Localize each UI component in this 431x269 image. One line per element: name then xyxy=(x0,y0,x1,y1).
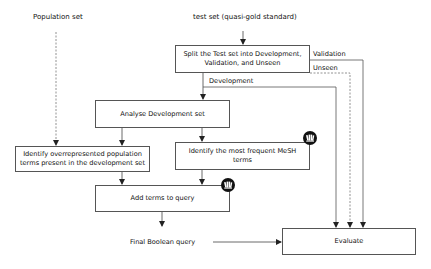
identify-population-terms-box: Identify overrepresented population term… xyxy=(15,146,150,172)
analyse-development-box: Analyse Development set xyxy=(95,100,230,128)
development-edge-label: Development xyxy=(209,77,253,85)
evaluate-box: Evaluate xyxy=(282,228,416,255)
split-test-set-text: Split the Test set into Development, Val… xyxy=(179,50,306,67)
identify-mesh-terms-text: Identify the most frequent MeSH terms xyxy=(179,147,306,164)
final-boolean-query-label: Final Boolean query xyxy=(130,238,195,246)
split-test-set-box: Split the Test set into Development, Val… xyxy=(175,45,310,73)
unseen-edge-label: Unseen xyxy=(313,64,338,72)
evaluate-text: Evaluate xyxy=(335,237,364,246)
identify-mesh-terms-box: Identify the most frequent MeSH terms xyxy=(175,142,310,170)
population-set-label: Population set xyxy=(33,13,83,21)
add-terms-text: Add terms to query xyxy=(131,194,195,203)
test-set-label: test set (quasi-gold standard) xyxy=(193,13,297,21)
library-books-icon xyxy=(221,178,235,192)
library-books-icon xyxy=(303,131,317,145)
analyse-development-text: Analyse Development set xyxy=(120,110,205,119)
add-terms-box: Add terms to query xyxy=(95,185,230,212)
validation-edge-label: Validation xyxy=(313,50,346,58)
identify-population-terms-text: Identify overrepresented population term… xyxy=(19,150,146,167)
